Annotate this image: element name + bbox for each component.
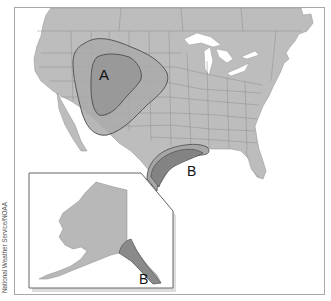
region-b-gulf-label: B [187, 163, 196, 179]
image-credit: National Weather Service/NOAA [1, 202, 8, 293]
region-a-label: A [99, 66, 109, 83]
map-frame: A B B [14, 7, 325, 295]
region-b-alaska-label: B [139, 271, 148, 287]
north-america-map: A B B [15, 8, 325, 295]
